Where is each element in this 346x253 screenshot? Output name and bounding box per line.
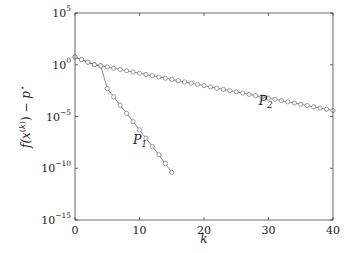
data-point-marker	[92, 63, 96, 67]
data-point-marker	[195, 82, 199, 86]
axes-layer: 01020304010510010−510−1010−15	[41, 4, 340, 237]
plot-frame	[75, 13, 333, 220]
data-point-marker	[202, 84, 206, 88]
data-point-marker	[312, 105, 316, 109]
y-tick-label: 10−10	[41, 159, 71, 175]
data-point-marker	[189, 81, 193, 85]
data-point-marker	[105, 86, 109, 90]
data-point-marker	[318, 106, 322, 110]
series-label-p1: P1	[132, 132, 147, 149]
series-label-p2: P2	[258, 93, 273, 110]
x-tick-label: 40	[326, 224, 340, 237]
data-point-marker	[157, 75, 161, 79]
y-tick-label: 105	[52, 4, 71, 20]
x-axis-label: k	[200, 232, 207, 246]
data-point-marker	[118, 67, 122, 71]
data-point-marker	[112, 66, 116, 70]
data-point-marker	[208, 85, 212, 89]
data-point-marker	[79, 57, 83, 61]
data-point-marker	[150, 74, 154, 78]
data-point-marker	[254, 93, 258, 97]
data-point-marker	[170, 170, 174, 174]
data-point-marker	[221, 87, 225, 91]
data-point-marker	[279, 98, 283, 102]
data-point-marker	[215, 86, 219, 90]
data-point-marker	[150, 144, 154, 148]
data-point-marker	[144, 72, 148, 76]
convergence-chart: P1P2 01020304010510010−510−1010−15 k f(x…	[0, 0, 346, 253]
data-point-marker	[286, 100, 290, 104]
data-point-marker	[163, 161, 167, 165]
data-point-marker	[99, 64, 103, 68]
data-point-marker	[131, 70, 135, 74]
data-point-marker	[234, 90, 238, 94]
x-tick-label: 10	[133, 224, 147, 237]
y-tick-label: 10−5	[46, 108, 71, 124]
data-point-marker	[157, 153, 161, 157]
data-point-marker	[131, 120, 135, 124]
data-point-marker	[125, 111, 129, 115]
data-point-marker	[228, 89, 232, 93]
data-point-marker	[137, 128, 141, 132]
data-point-marker	[105, 65, 109, 69]
data-point-marker	[324, 107, 328, 111]
data-point-marker	[163, 76, 167, 80]
data-point-marker	[125, 69, 129, 73]
data-point-marker	[292, 101, 296, 105]
data-point-marker	[112, 95, 116, 99]
x-tick-label: 0	[72, 224, 79, 237]
svg-text:f(x(k)) − p⋆: f(x(k)) − p⋆	[18, 86, 33, 149]
data-point-marker	[118, 103, 122, 107]
y-axis-label: f(x(k)) − p⋆	[18, 86, 33, 149]
y-tick-label: 100	[52, 56, 71, 72]
data-point-marker	[137, 71, 141, 75]
data-point-marker	[170, 77, 174, 81]
data-point-marker	[241, 91, 245, 95]
data-point-marker	[183, 80, 187, 84]
y-tick-label: 10−15	[41, 211, 71, 227]
x-tick-label: 30	[262, 224, 276, 237]
data-point-marker	[273, 97, 277, 101]
data-point-marker	[86, 60, 90, 64]
data-point-marker	[176, 79, 180, 83]
series-layer: P1P2	[73, 55, 335, 175]
data-point-marker	[305, 103, 309, 107]
data-point-marker	[299, 102, 303, 106]
data-point-marker	[247, 92, 251, 96]
